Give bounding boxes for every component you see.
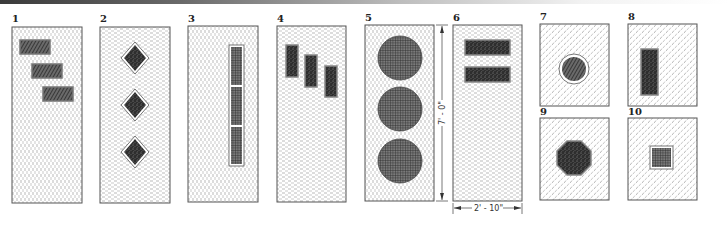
door-detail-8 bbox=[628, 24, 697, 106]
width-dimension: 2' - 10" bbox=[453, 203, 522, 214]
door-detail-9 bbox=[540, 118, 609, 200]
door-3 bbox=[188, 26, 258, 202]
width-dimension-text: 2' - 10" bbox=[474, 204, 503, 213]
door-2 bbox=[100, 27, 170, 203]
door-diagrams: 7' - 0" 2' - 10" bbox=[0, 0, 728, 230]
door-detail-7 bbox=[540, 24, 609, 106]
door-6 bbox=[453, 25, 522, 201]
door-1 bbox=[12, 27, 82, 203]
height-dimension-text: 7' - 0" bbox=[438, 101, 447, 125]
door-4 bbox=[277, 26, 346, 202]
door-5 bbox=[365, 25, 434, 201]
door-detail-10 bbox=[628, 118, 697, 200]
height-dimension: 7' - 0" bbox=[436, 25, 448, 201]
